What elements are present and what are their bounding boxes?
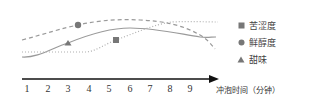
x-tick: 9: [188, 83, 193, 94]
triangle-marker-icon: [65, 40, 72, 46]
x-tick: 8: [168, 83, 173, 94]
x-tick: 7: [148, 83, 153, 94]
x-tick: 5: [107, 83, 112, 94]
x-tick: 6: [128, 83, 133, 94]
x-tick: 2: [46, 83, 51, 94]
series-line-kusedu: [22, 22, 218, 52]
legend-item-tianwei: 甜味: [236, 51, 276, 68]
legend: 苦涩度 鲜醇度 甜味: [236, 17, 276, 68]
legend-label: 甜味: [249, 53, 267, 66]
x-tick: 4: [87, 83, 92, 94]
x-tick: 3: [66, 83, 71, 94]
square-icon: [236, 22, 246, 29]
x-axis-label: 冲泡时间（分钟）: [216, 84, 280, 95]
circle-icon: [236, 39, 246, 46]
legend-label: 苦涩度: [249, 19, 276, 32]
legend-item-xianchundu: 鲜醇度: [236, 34, 276, 51]
arrow-right-icon: [209, 75, 219, 83]
circle-marker-icon: [75, 22, 81, 28]
triangle-icon: [236, 56, 246, 63]
x-tick: 1: [25, 83, 30, 94]
legend-item-kusedu: 苦涩度: [236, 17, 276, 34]
square-marker-icon: [113, 37, 119, 43]
legend-label: 鲜醇度: [249, 36, 276, 49]
